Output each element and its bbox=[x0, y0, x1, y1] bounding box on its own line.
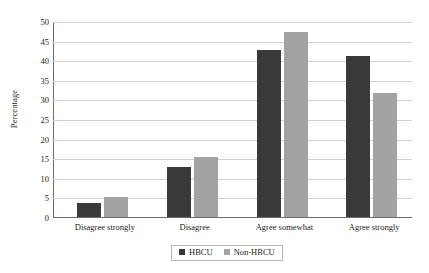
legend-swatch-icon bbox=[179, 249, 185, 255]
legend-item: HBCU bbox=[179, 248, 213, 257]
y-tick-label: 30 bbox=[23, 95, 49, 105]
y-tick-label: 0 bbox=[23, 213, 49, 223]
bar-non-hbcu bbox=[284, 32, 308, 217]
legend-label: HBCU bbox=[189, 248, 213, 257]
bar-group bbox=[322, 21, 412, 217]
legend-swatch-icon bbox=[224, 249, 230, 255]
y-axis-title: Percentage bbox=[9, 69, 19, 149]
x-category-label: Agree strongly bbox=[349, 222, 400, 232]
bar-hbcu bbox=[346, 56, 370, 217]
bar-group bbox=[53, 21, 143, 217]
x-category-label: Agree somewhat bbox=[256, 222, 313, 232]
y-tick-label: 25 bbox=[23, 115, 49, 125]
x-category-label: Disagree strongly bbox=[75, 222, 135, 232]
y-tick-label: 10 bbox=[23, 174, 49, 184]
bar-hbcu bbox=[167, 167, 191, 217]
y-tick-label: 45 bbox=[23, 37, 49, 47]
bar-chart: Percentage HBCUNon-HBCU 0510152025303540… bbox=[0, 0, 429, 273]
y-tick-label: 15 bbox=[23, 154, 49, 164]
bar-hbcu bbox=[77, 203, 101, 218]
y-tick-label: 40 bbox=[23, 56, 49, 66]
bar-hbcu bbox=[257, 50, 281, 217]
y-tick-label: 35 bbox=[23, 76, 49, 86]
y-tick-label: 50 bbox=[23, 17, 49, 27]
bar-non-hbcu bbox=[194, 157, 218, 217]
y-tick-label: 5 bbox=[23, 193, 49, 203]
plot-area bbox=[53, 22, 412, 218]
bar-group bbox=[233, 21, 323, 217]
bar-non-hbcu bbox=[104, 197, 128, 217]
y-tick-label: 20 bbox=[23, 135, 49, 145]
chart-legend: HBCUNon-HBCU bbox=[171, 245, 283, 261]
bar-non-hbcu bbox=[373, 93, 397, 217]
x-axis-line bbox=[53, 217, 412, 218]
legend-item: Non-HBCU bbox=[224, 248, 275, 257]
x-category-label: Disagree bbox=[180, 222, 210, 232]
legend-label: Non-HBCU bbox=[234, 248, 275, 257]
bar-group bbox=[143, 21, 233, 217]
